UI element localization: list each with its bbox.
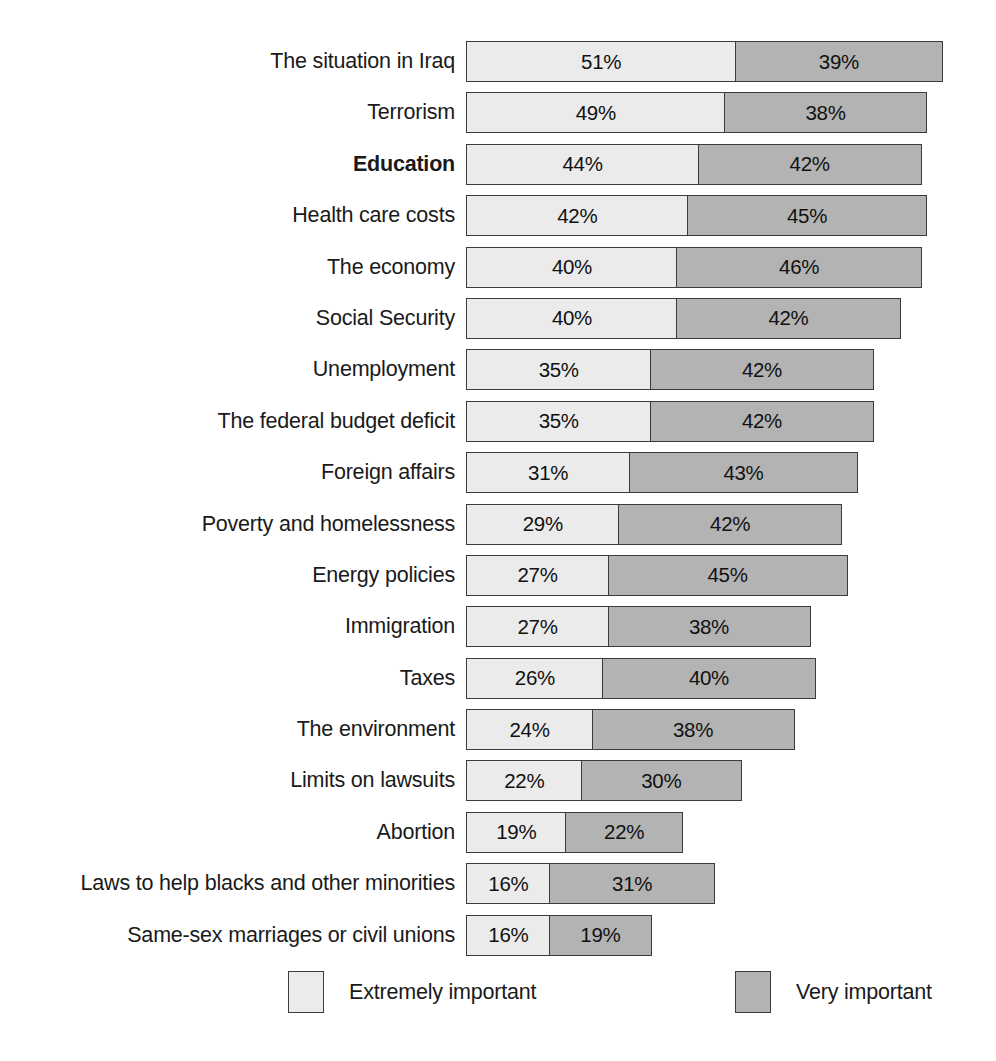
bar-segment-extremely-important: 44% — [466, 144, 699, 185]
bar-segment-value: 29% — [523, 512, 563, 536]
bar-track: 44%42% — [466, 144, 922, 185]
legend-label-very-important: Very important — [796, 980, 932, 1005]
bar-row-label: Health care costs — [0, 195, 466, 236]
bar-row-label: Poverty and homelessness — [0, 504, 466, 545]
bar-segment-extremely-important: 24% — [466, 709, 593, 750]
chart-legend: Extremely important Very important — [0, 968, 996, 1028]
bar-track: 42%45% — [466, 195, 927, 236]
bar-segment-value: 16% — [488, 872, 528, 896]
bar-segment-very-important: 38% — [608, 606, 811, 647]
bar-segment-very-important: 30% — [581, 760, 742, 801]
bar-track: 16%31% — [466, 863, 715, 904]
bar-segment-value: 40% — [552, 255, 592, 279]
bar-segment-value: 42% — [557, 204, 597, 228]
bar-row-label: Immigration — [0, 606, 466, 647]
bar-row: Same-sex marriages or civil unions16%19% — [0, 915, 996, 966]
bar-segment-very-important: 38% — [724, 92, 927, 133]
bar-segment-value: 42% — [768, 306, 808, 330]
bar-segment-value: 49% — [576, 101, 616, 125]
stacked-bar-chart: The situation in Iraq51%39%Terrorism49%3… — [0, 0, 996, 1061]
bar-segment-very-important: 22% — [565, 812, 683, 853]
bar-track: 40%46% — [466, 247, 922, 288]
bar-segment-value: 35% — [539, 409, 579, 433]
bar-segment-extremely-important: 49% — [466, 92, 726, 133]
bar-row-label: Social Security — [0, 298, 466, 339]
bar-segment-extremely-important: 19% — [466, 812, 567, 853]
bar-segment-value: 38% — [806, 101, 846, 125]
bar-track: 29%42% — [466, 504, 842, 545]
legend-entry-extremely-important: Extremely important — [288, 968, 536, 1016]
bar-row-label: Foreign affairs — [0, 452, 466, 493]
bar-track: 16%19% — [466, 915, 652, 956]
bar-row-label: The federal budget deficit — [0, 401, 466, 442]
bar-track: 40%42% — [466, 298, 901, 339]
bar-segment-value: 30% — [641, 769, 681, 793]
bar-segment-very-important: 42% — [676, 298, 900, 339]
bar-segment-value: 26% — [515, 666, 555, 690]
bar-track: 26%40% — [466, 658, 816, 699]
bar-segment-value: 27% — [517, 615, 557, 639]
bar-segment-value: 22% — [604, 820, 644, 844]
bar-row: The environment24%38% — [0, 709, 996, 760]
bar-segment-extremely-important: 16% — [466, 915, 551, 956]
bar-segment-value: 42% — [742, 409, 782, 433]
bar-segment-value: 19% — [496, 820, 536, 844]
bar-segment-very-important: 42% — [650, 401, 874, 442]
bar-row: Unemployment35%42% — [0, 349, 996, 400]
bar-segment-extremely-important: 29% — [466, 504, 620, 545]
bar-segment-extremely-important: 51% — [466, 41, 736, 82]
bar-segment-extremely-important: 35% — [466, 349, 652, 390]
bar-track: 27%38% — [466, 606, 811, 647]
bar-row-label: Same-sex marriages or civil unions — [0, 915, 466, 956]
bar-segment-value: 44% — [563, 152, 603, 176]
bar-segment-value: 43% — [723, 461, 763, 485]
bar-row: Limits on lawsuits22%30% — [0, 760, 996, 811]
legend-swatch-very-important — [735, 971, 771, 1013]
bar-row: Taxes26%40% — [0, 658, 996, 709]
bar-track: 24%38% — [466, 709, 795, 750]
bar-segment-very-important: 43% — [629, 452, 859, 493]
bar-segment-very-important: 45% — [687, 195, 927, 236]
bar-row-label: Education — [0, 144, 466, 185]
bar-row: Laws to help blacks and other minorities… — [0, 863, 996, 914]
bar-segment-value: 39% — [819, 50, 859, 74]
bar-row-label: Energy policies — [0, 555, 466, 596]
bar-segment-value: 45% — [707, 563, 747, 587]
bar-row-label: The environment — [0, 709, 466, 750]
bar-row: Poverty and homelessness29%42% — [0, 504, 996, 555]
bar-segment-value: 40% — [552, 306, 592, 330]
bar-row-label: The situation in Iraq — [0, 41, 466, 82]
chart-rows: The situation in Iraq51%39%Terrorism49%3… — [0, 41, 996, 966]
bar-segment-value: 42% — [790, 152, 830, 176]
bar-row: Foreign affairs31%43% — [0, 452, 996, 503]
bar-segment-value: 31% — [612, 872, 652, 896]
bar-segment-very-important: 45% — [608, 555, 848, 596]
bar-segment-very-important: 46% — [676, 247, 921, 288]
bar-segment-value: 45% — [787, 204, 827, 228]
bar-track: 27%45% — [466, 555, 848, 596]
bar-row: Immigration27%38% — [0, 606, 996, 657]
bar-segment-very-important: 40% — [602, 658, 816, 699]
bar-segment-very-important: 42% — [618, 504, 842, 545]
bar-row-label: Abortion — [0, 812, 466, 853]
bar-track: 19%22% — [466, 812, 683, 853]
bar-segment-extremely-important: 35% — [466, 401, 652, 442]
bar-segment-very-important: 31% — [549, 863, 715, 904]
bar-segment-value: 38% — [689, 615, 729, 639]
bar-segment-extremely-important: 26% — [466, 658, 604, 699]
bar-row-label: The economy — [0, 247, 466, 288]
bar-row: Terrorism49%38% — [0, 92, 996, 143]
bar-segment-very-important: 19% — [549, 915, 651, 956]
bar-segment-value: 27% — [517, 563, 557, 587]
bar-segment-extremely-important: 40% — [466, 298, 678, 339]
bar-segment-value: 22% — [504, 769, 544, 793]
legend-swatch-extremely-important — [288, 971, 324, 1013]
bar-row-label: Laws to help blacks and other minorities — [0, 863, 466, 904]
bar-segment-extremely-important: 16% — [466, 863, 551, 904]
bar-segment-value: 42% — [710, 512, 750, 536]
bar-segment-very-important: 38% — [592, 709, 795, 750]
bar-segment-value: 51% — [581, 50, 621, 74]
bar-row-label: Limits on lawsuits — [0, 760, 466, 801]
bar-row: The federal budget deficit35%42% — [0, 401, 996, 452]
legend-label-extremely-important: Extremely important — [349, 980, 536, 1005]
